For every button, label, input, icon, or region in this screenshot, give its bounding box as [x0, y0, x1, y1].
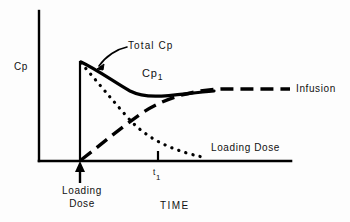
infusion-series-label: Infusion [296, 84, 336, 95]
loading-dose-series-label: Loading Dose [211, 143, 280, 154]
loading-dose-event-label: LoadingDose [55, 186, 109, 209]
x-axis-label: TIME [160, 201, 190, 212]
cp1-label-subscript: 1 [158, 72, 163, 82]
loading-dose-arrow-head-icon [75, 161, 85, 172]
t1-label-subscript: 1 [156, 173, 160, 182]
y-axis-label: Cp [14, 62, 28, 73]
cp1-label-base: Cp [142, 67, 158, 79]
plot-canvas [0, 0, 350, 222]
pharmacokinetics-figure: Cp Total Cp Cp1 Infusion Loading Dose t1… [0, 0, 350, 222]
loading-dose-event-label-line1: Loading [62, 185, 102, 196]
x-tick-label-t1: t1 [153, 169, 160, 182]
total-cp-annotation-arrow [99, 47, 127, 66]
cp1-label: Cp1 [142, 68, 162, 82]
total-cp-label: Total Cp [128, 41, 174, 52]
loading-dose-event-label-line2: Dose [55, 199, 109, 210]
